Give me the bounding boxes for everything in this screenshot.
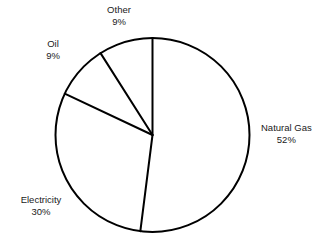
pie-slice-label-electricity: Electricity 30%: [10, 194, 72, 217]
pie-slice-value-other: 9%: [88, 16, 150, 28]
pie-slice-value-natural-gas: 52%: [261, 134, 312, 146]
pie-slice-label-natural-gas: Natural Gas 52%: [261, 122, 312, 145]
pie-slice-name-other: Other: [88, 4, 150, 16]
pie-slice-name-natural-gas: Natural Gas: [261, 122, 312, 134]
pie-slice-label-oil: Oil 9%: [28, 38, 78, 61]
pie-slice-name-oil: Oil: [28, 38, 78, 50]
pie-slice-value-oil: 9%: [28, 50, 78, 62]
pie-chart-page: Other 9% Oil 9% Natural Gas 52% Electric…: [0, 0, 327, 248]
pie-slice-label-other: Other 9%: [88, 4, 150, 27]
pie-slice-name-electricity: Electricity: [10, 194, 72, 206]
pie-slice-value-electricity: 30%: [10, 206, 72, 218]
